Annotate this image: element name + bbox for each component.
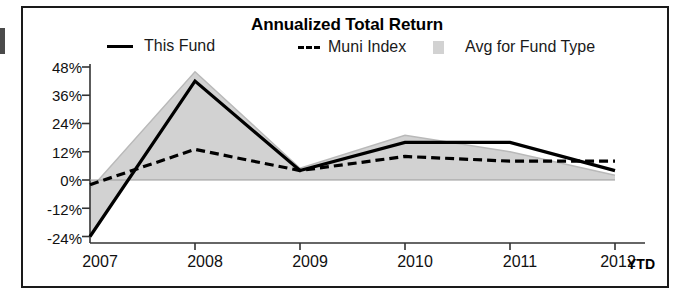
chart-figure: Annualized Total Return This Fund Muni I… [0,0,692,298]
x-tick-label: 2010 [397,253,433,271]
x-tick-label: 2007 [82,253,118,271]
x-tick-label: 2008 [187,253,223,271]
x-tick-label: 2009 [292,253,328,271]
x-axis-ytd-label: YTD [627,256,655,272]
x-tick-label: 2011 [503,253,537,271]
x-axis-tick-labels: 2007 2008 2009 2010 2011 2012 YTD [0,0,692,298]
